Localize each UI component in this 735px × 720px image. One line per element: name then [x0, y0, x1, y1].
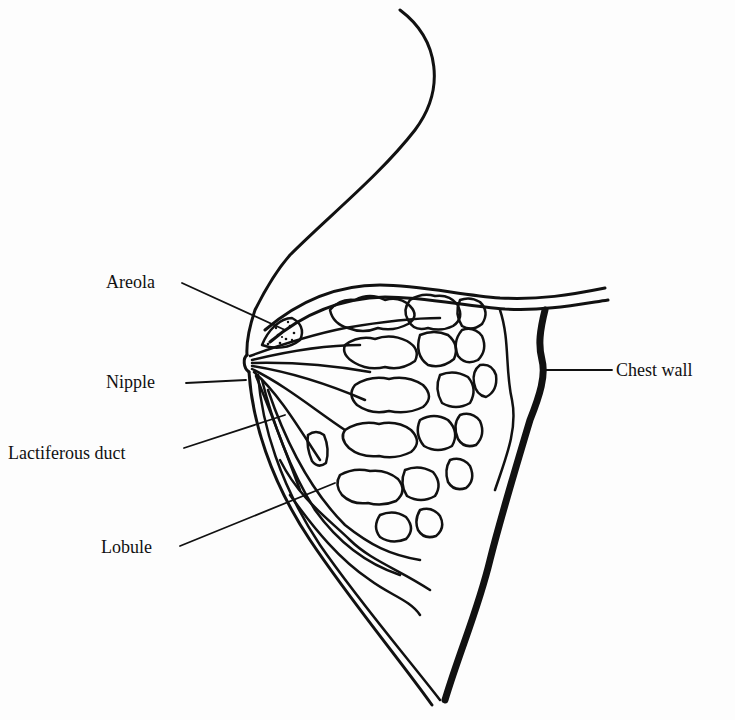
leader-areola	[182, 283, 285, 330]
label-nipple: Nipple	[106, 372, 155, 392]
leader-nipple	[186, 380, 246, 383]
diagram-canvas: Areola Nipple Lactiferous duct Lobule Ch…	[0, 0, 735, 720]
lobules	[308, 295, 497, 542]
label-lactiferous-duct: Lactiferous duct	[8, 443, 125, 463]
label-areola: Areola	[106, 272, 155, 292]
nipple-outline	[244, 355, 249, 372]
chest-wall	[445, 310, 545, 700]
leader-lactiferous-duct	[184, 415, 285, 448]
upper-skin-double-2	[270, 297, 608, 342]
label-chest-wall: Chest wall	[616, 360, 693, 380]
leader-lobule	[180, 483, 335, 546]
label-lobule: Lobule	[101, 537, 152, 557]
leader-lines	[180, 283, 612, 546]
